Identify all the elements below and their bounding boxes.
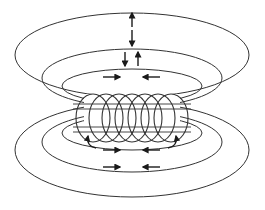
- field-direction-arrows: [103, 13, 160, 167]
- coil-background: [84, 94, 180, 142]
- solenoid-field-diagram: [0, 0, 265, 210]
- coil: [73, 94, 191, 148]
